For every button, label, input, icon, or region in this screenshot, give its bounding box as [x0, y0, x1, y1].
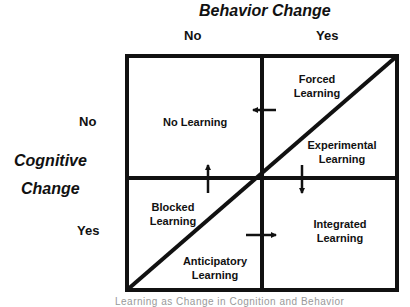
region-anticipatory-learning: Anticipatory Learning [175, 254, 255, 282]
row-label-yes: Yes [77, 223, 99, 238]
region-integrated-learning: Integrated Learning [300, 217, 380, 245]
row-label-no: No [79, 114, 96, 129]
column-label-no: No [184, 28, 201, 43]
region-no-learning: No Learning [163, 115, 227, 129]
column-axis-title: Behavior Change [199, 2, 331, 20]
region-forced-learning: Forced Learning [282, 72, 352, 100]
figure-caption: Learning as Change in Cognition and Beha… [115, 296, 344, 307]
region-experimental-learning: Experimental Learning [302, 138, 382, 166]
region-blocked-learning: Blocked Learning [143, 200, 203, 228]
column-label-yes: Yes [316, 28, 338, 43]
row-axis-title-line1: Cognitive [14, 152, 87, 170]
row-axis-title-line2: Change [21, 180, 80, 198]
